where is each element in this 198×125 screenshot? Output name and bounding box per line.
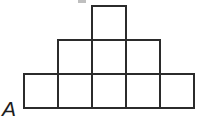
square-r2c3: [92, 40, 126, 74]
square-pyramid-diagram: [0, 0, 198, 125]
figure-squares-group: [24, 6, 194, 108]
figure-label-a: A: [2, 96, 24, 122]
square-r2c4: [126, 40, 160, 74]
figure-canvas: A: [0, 0, 198, 125]
square-r3c3: [92, 74, 126, 108]
square-r1c3: [92, 6, 126, 40]
square-r3c1: [24, 74, 58, 108]
square-r3c4: [126, 74, 160, 108]
square-r2c2: [58, 40, 92, 74]
square-r3c5: [160, 74, 194, 108]
square-r3c2: [58, 74, 92, 108]
